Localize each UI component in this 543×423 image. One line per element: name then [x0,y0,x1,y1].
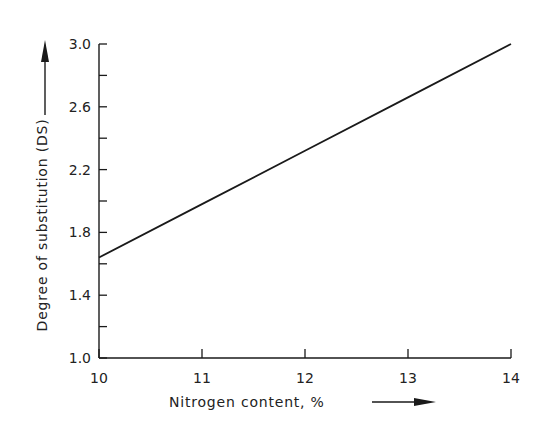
y-axis-ticks: 1.01.41.82.22.63.0 [69,36,107,366]
y-tick-label: 2.2 [69,162,91,178]
series-line [99,44,511,258]
y-axis-title: Degree of substitution (DS) [34,119,50,332]
x-axis-ticks: 1011121314 [90,349,520,386]
x-axis-arrow-icon [372,398,436,406]
x-tick-label: 11 [193,370,211,386]
x-tick-label: 14 [502,370,520,386]
y-tick-label: 3.0 [69,36,91,52]
y-axis-label: Degree of substitution (DS) [34,119,50,332]
y-tick-label: 2.6 [69,99,91,115]
y-tick-label: 1.0 [69,350,91,366]
line-chart: 1.01.41.82.22.63.0 1011121314 Degree of … [0,0,543,423]
y-tick-label: 1.8 [69,224,91,240]
data-series [99,44,511,258]
axes [99,44,511,358]
x-tick-label: 13 [399,370,417,386]
x-tick-label: 12 [296,370,314,386]
x-axis-label: Nitrogen content, % [169,394,325,410]
y-axis-arrow-icon [41,40,49,115]
x-tick-label: 10 [90,370,108,386]
y-tick-label: 1.4 [69,287,91,303]
